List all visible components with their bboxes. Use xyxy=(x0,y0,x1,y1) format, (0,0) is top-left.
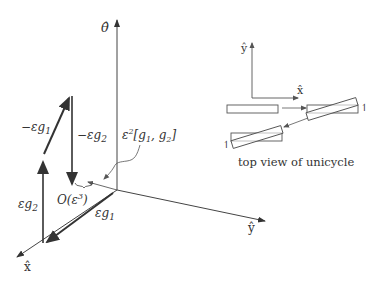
eps-g2-label: εg2 xyxy=(18,197,38,213)
y-axis-label: ŷ xyxy=(247,221,255,235)
unicycle-inset: ŷ x̂ ↿ ↿ top view of unicycle xyxy=(222,42,368,169)
order-label: O(ε3) xyxy=(57,192,88,207)
y-axis xyxy=(117,190,265,221)
rotation-mark-1: ↿ xyxy=(360,102,368,113)
lie-bracket-label: ε2[g1, g2] xyxy=(122,127,176,144)
neg-eps-g1-label: −εg1 xyxy=(21,120,51,136)
x-axis-label: x̂ xyxy=(24,260,31,274)
wheel-rotated xyxy=(306,98,358,121)
theta-axis-label: θ̂ xyxy=(101,20,109,35)
order-brace xyxy=(75,183,93,188)
eps-g1-label: εg1 xyxy=(95,206,115,222)
neg-eps-g2-label: −εg2 xyxy=(77,128,107,144)
diagram-svg: θ̂ x̂ ŷ εg1 εg2 −εg1 −εg2 ε2[g1, g2] O(ε… xyxy=(0,0,381,287)
wheel-back-rotated xyxy=(231,126,283,149)
lie-bracket-diagram: θ̂ x̂ ŷ εg1 εg2 −εg1 −εg2 ε2[g1, g2] O(ε… xyxy=(0,0,381,287)
residual-arrow xyxy=(88,182,117,190)
inset-y-label: ŷ xyxy=(240,42,248,55)
wheel-initial xyxy=(227,105,278,113)
inset-x-label: x̂ xyxy=(297,84,304,97)
move-arrow-2 xyxy=(284,118,308,127)
inset-caption: top view of unicycle xyxy=(238,155,354,169)
rotation-mark-2: ↿ xyxy=(222,139,230,150)
lie-bracket-leader xyxy=(104,145,140,179)
